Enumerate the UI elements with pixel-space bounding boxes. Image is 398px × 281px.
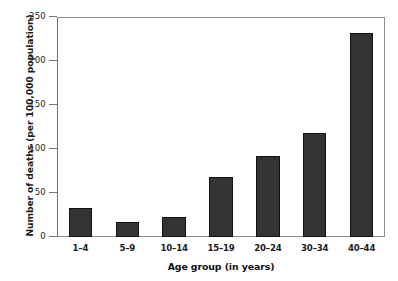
bar-40-44	[350, 33, 374, 237]
bar-20-24	[256, 156, 280, 237]
x-axis-title: Age group (in years)	[57, 261, 385, 272]
y-tick-50	[49, 192, 57, 193]
y-tick-label-100: 100	[6, 143, 46, 153]
bar-5-9	[116, 222, 140, 237]
y-tick-200	[49, 60, 57, 61]
x-tick-label-5-9: 5–9	[104, 243, 151, 253]
y-axis-title: Number of deaths (per 100,000 population…	[24, 11, 35, 241]
bar-chart: Number of deaths (per 100,000 population…	[0, 0, 398, 281]
y-tick-label-150: 150	[6, 99, 46, 109]
x-tick-label-10-14: 10–14	[151, 243, 198, 253]
y-tick-100	[49, 148, 57, 149]
y-tick-250	[49, 16, 57, 17]
y-tick-label-0: 0	[6, 231, 46, 241]
bar-30-34	[303, 133, 327, 237]
y-tick-0	[49, 236, 57, 237]
y-tick-label-200: 200	[6, 55, 46, 65]
y-tick-label-250: 250	[6, 11, 46, 21]
bar-15-19	[209, 177, 233, 237]
y-tick-150	[49, 104, 57, 105]
x-tick-label-1-4: 1–4	[57, 243, 104, 253]
x-tick-label-20-24: 20–24	[244, 243, 291, 253]
bar-1-4	[69, 208, 93, 237]
y-tick-label-50: 50	[6, 187, 46, 197]
bar-10-14	[162, 217, 186, 237]
x-tick-label-30-34: 30–34	[291, 243, 338, 253]
x-tick-label-40-44: 40–44	[338, 243, 385, 253]
x-tick-label-15-19: 15–19	[198, 243, 245, 253]
